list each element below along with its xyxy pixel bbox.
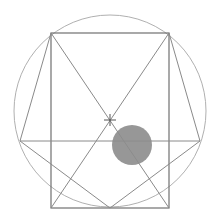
pentagon-edge-3 <box>20 141 110 208</box>
filled-gray-dot <box>112 125 152 165</box>
pentagon-edge-1 <box>20 33 51 141</box>
outer-circle <box>14 15 206 207</box>
pentagon-edge-2 <box>169 33 200 141</box>
geometric-construction-diagram <box>0 0 217 223</box>
center-cross-mark <box>104 114 116 126</box>
